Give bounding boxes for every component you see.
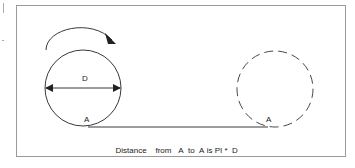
diameter-arrow-left-icon — [45, 84, 53, 92]
diameter-arrow-right-icon — [113, 84, 121, 92]
distance-caption: Distance from A to A is PI * D — [111, 137, 238, 155]
rotation-arrow-icon — [46, 28, 112, 50]
wheel-end-circle — [237, 51, 313, 127]
rotation-arrowhead-icon — [105, 33, 116, 44]
end-point-label: A — [266, 115, 271, 124]
start-point-label: A — [84, 115, 89, 124]
diameter-label: D — [82, 74, 88, 83]
